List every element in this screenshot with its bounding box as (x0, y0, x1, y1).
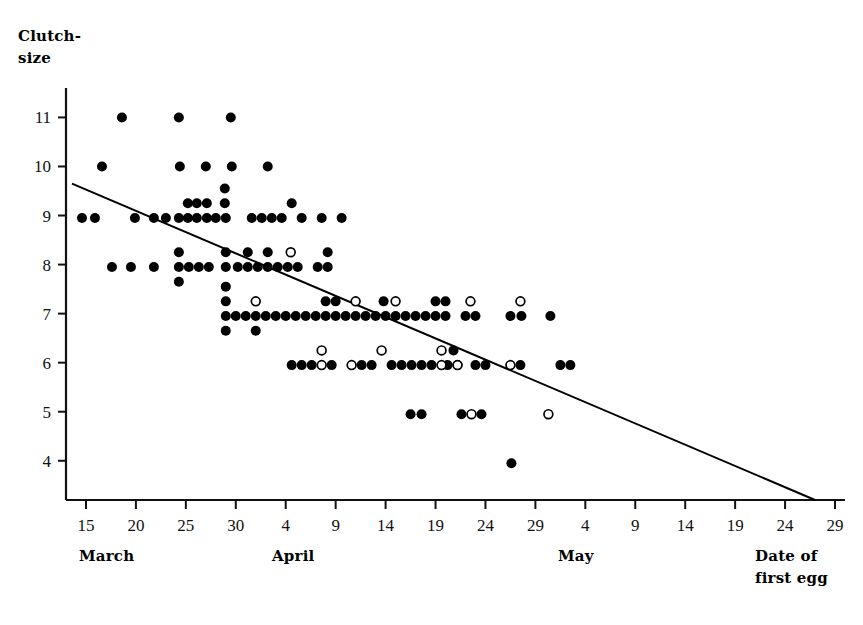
x-axis-tick-label: 4 (581, 516, 590, 535)
data-point-filled (565, 360, 575, 370)
data-point-filled (241, 311, 251, 321)
data-point-filled (220, 184, 230, 194)
data-point-filled (247, 213, 257, 223)
data-point-filled (287, 198, 297, 208)
data-point-filled (301, 311, 311, 321)
data-point-filled (227, 161, 237, 171)
data-point-filled (431, 296, 441, 306)
data-point-open (506, 361, 515, 370)
data-point-filled (263, 247, 273, 257)
data-point-filled (441, 296, 451, 306)
y-axis-tick-label: 6 (43, 354, 52, 373)
data-point-filled (202, 198, 212, 208)
data-point-filled (267, 213, 277, 223)
data-point-filled (331, 311, 341, 321)
data-point-filled (297, 360, 307, 370)
data-point-filled (126, 262, 136, 272)
data-point-filled (387, 360, 397, 370)
data-point-filled (505, 311, 515, 321)
y-axis-tick-label: 7 (43, 305, 52, 324)
data-point-filled (555, 360, 565, 370)
data-point-filled (351, 311, 361, 321)
x-axis-title: Date offirst egg (755, 546, 828, 590)
data-point-filled (175, 161, 185, 171)
data-point-filled (77, 213, 87, 223)
data-point-filled (231, 311, 241, 321)
data-point-filled (263, 161, 273, 171)
month-label-may: May (558, 546, 594, 568)
data-point-filled (506, 458, 516, 468)
data-point-open (351, 297, 360, 306)
data-point-filled (317, 213, 327, 223)
data-point-filled (263, 262, 273, 272)
x-axis-tick-label: 14 (377, 516, 395, 535)
data-point-filled (379, 296, 389, 306)
series-open-circle (251, 248, 552, 419)
data-point-open (347, 361, 356, 370)
x-axis-tick-label: 20 (127, 516, 144, 535)
data-point-filled (130, 213, 140, 223)
y-axis-tick-label: 11 (35, 108, 51, 127)
x-axis-tick-label: 25 (177, 516, 194, 535)
data-point-filled (311, 311, 321, 321)
data-point-filled (194, 262, 204, 272)
data-point-filled (460, 311, 470, 321)
data-point-filled (261, 311, 271, 321)
data-point-filled (406, 409, 416, 419)
data-point-filled (323, 247, 333, 257)
data-point-filled (283, 262, 293, 272)
data-point-filled (441, 311, 451, 321)
scatter-plot-svg: 45678910111520253049141924294914192429 (0, 0, 863, 625)
x-axis-tick-label: 9 (331, 516, 340, 535)
data-point-filled (281, 311, 291, 321)
data-point-filled (233, 262, 243, 272)
data-point-filled (321, 296, 331, 306)
data-point-filled (323, 262, 333, 272)
data-point-filled (371, 311, 381, 321)
data-point-filled (174, 247, 184, 257)
data-point-open (516, 297, 525, 306)
y-axis-tick-label: 5 (43, 403, 52, 422)
data-point-filled (545, 311, 555, 321)
data-point-filled (97, 161, 107, 171)
data-point-filled (220, 198, 230, 208)
data-point-filled (397, 360, 407, 370)
data-point-filled (361, 311, 371, 321)
data-point-open (317, 361, 326, 370)
data-point-filled (293, 262, 303, 272)
data-point-open (317, 346, 326, 355)
data-point-filled (470, 360, 480, 370)
data-point-open (467, 410, 476, 419)
clutch-size-scatter-figure: 45678910111520253049141924294914192429 C… (0, 0, 863, 625)
data-point-filled (201, 161, 211, 171)
data-point-filled (476, 409, 486, 419)
x-axis-tick-label: 19 (727, 516, 744, 535)
data-point-filled (381, 311, 391, 321)
data-point-filled (243, 262, 253, 272)
data-point-filled (327, 360, 337, 370)
y-axis-tick-label: 9 (43, 207, 52, 226)
x-axis-tick-label: 29 (527, 516, 544, 535)
data-point-filled (211, 213, 221, 223)
month-label-march: March (79, 546, 134, 568)
x-axis-tick-label: 30 (227, 516, 244, 535)
data-point-open (377, 346, 386, 355)
data-point-filled (515, 360, 525, 370)
data-point-filled (251, 311, 261, 321)
data-point-open (466, 297, 475, 306)
data-point-filled (407, 360, 417, 370)
data-point-filled (337, 213, 347, 223)
data-point-filled (184, 262, 194, 272)
data-point-filled (470, 311, 480, 321)
regression-line (72, 184, 815, 500)
data-point-filled (273, 262, 283, 272)
data-point-filled (174, 213, 184, 223)
data-point-filled (313, 262, 323, 272)
data-point-filled (257, 213, 267, 223)
data-point-filled (226, 112, 236, 122)
data-point-filled (357, 360, 367, 370)
data-point-filled (221, 326, 231, 336)
data-point-filled (291, 311, 301, 321)
data-point-filled (221, 213, 231, 223)
data-point-filled (341, 311, 351, 321)
